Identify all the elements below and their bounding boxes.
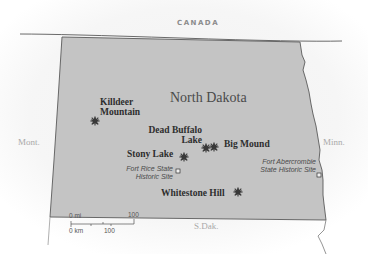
site-name-line: State Historic Site (252, 166, 316, 174)
site-square-icon (317, 173, 321, 177)
battle-name-line: Dead Buffalo (145, 125, 202, 135)
canada-label: CANADA (177, 19, 219, 27)
site-name-line: Fort Rice State (122, 165, 173, 173)
scale-km-zero: 0 km (69, 227, 83, 234)
site-square-icon (176, 169, 180, 173)
battle-star-icon (209, 142, 218, 151)
battle-star-icon (233, 187, 242, 196)
battle-name-line: Mountain (100, 107, 140, 117)
minnesota-label: Minn. (323, 137, 345, 147)
battle-name-line: Killdeer (100, 97, 140, 107)
site-label-fort-abercrombie: Fort Abercrombie State Historic Site (252, 158, 316, 174)
battle-label-whitestone-hill: Whitestone Hill (161, 188, 225, 198)
battle-label-stony-lake: Stony Lake (127, 149, 173, 159)
site-name-line: Fort Abercrombie (252, 158, 316, 166)
battle-star-icon (90, 116, 99, 125)
montana-label: Mont. (18, 137, 40, 147)
battle-name-line: Lake (145, 135, 202, 145)
scale-mi-max: 100 (128, 211, 139, 218)
battle-star-icon (201, 143, 210, 152)
battle-star-icon (179, 152, 188, 161)
state-name-label: North Dakota (170, 90, 247, 106)
site-name-line: Historic Site (122, 173, 173, 181)
battle-label-big-mound: Big Mound (224, 139, 270, 149)
south-dakota-label: S.Dak. (194, 221, 219, 231)
scale-mi-zero: 0 mi (69, 212, 81, 219)
battle-label-dead-buffalo: Dead Buffalo Lake (145, 125, 202, 145)
site-label-fort-rice: Fort Rice State Historic Site (122, 165, 173, 181)
battle-label-killdeer: Killdeer Mountain (100, 97, 140, 117)
scale-km-mid: 100 (104, 227, 115, 234)
